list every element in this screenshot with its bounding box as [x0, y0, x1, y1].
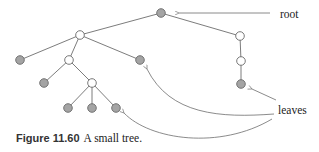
- leaf-pointer-arrow-middle: [147, 69, 274, 115]
- tree-edge-a-l2: [80, 35, 140, 60]
- internal-node: [76, 31, 85, 40]
- leaf-node: [112, 104, 121, 113]
- tree-edge-d-l6: [92, 83, 116, 108]
- tree-edges: [20, 13, 241, 108]
- figure-caption: Figure 11.60A small tree.: [16, 128, 142, 146]
- internal-node: [237, 57, 246, 66]
- tree-edge-c-l3: [44, 60, 69, 83]
- root-label: root: [280, 8, 299, 20]
- leaf-node: [237, 80, 246, 89]
- figure-number: Figure 11.60: [16, 132, 80, 144]
- leaf-pointer-arrow-bottom: [124, 113, 272, 138]
- internal-node: [236, 32, 245, 41]
- root-node: [157, 9, 166, 18]
- internal-node: [88, 79, 97, 88]
- tree-edge-d-l4: [68, 83, 92, 108]
- leaf-node: [88, 104, 97, 113]
- tree-edge-root-a: [80, 13, 161, 35]
- tree-edge-c-d: [69, 60, 92, 83]
- leaf-node: [16, 56, 25, 65]
- leaf-pointer-arrow-right: [252, 89, 276, 100]
- figure-caption-text: A small tree.: [84, 132, 142, 144]
- leaves-label: leaves: [278, 104, 307, 116]
- tree-edge-root-b: [161, 13, 240, 36]
- tree-nodes: [16, 9, 246, 113]
- leaf-node: [40, 79, 49, 88]
- leaf-node: [64, 104, 73, 113]
- internal-node: [65, 56, 74, 65]
- leaf-node: [136, 56, 145, 65]
